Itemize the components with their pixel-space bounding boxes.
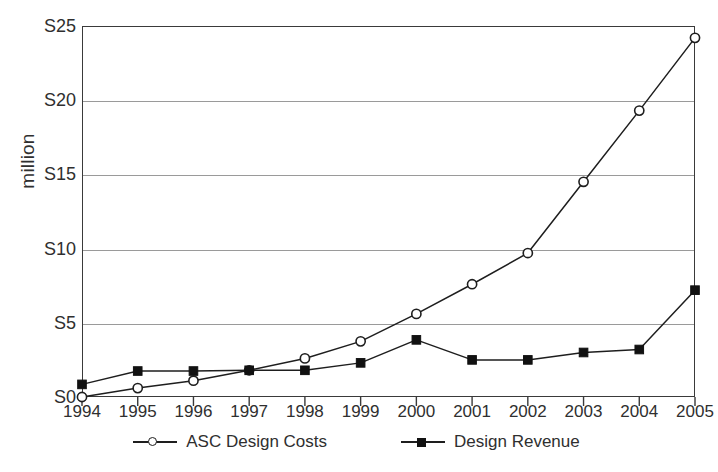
x-axis-tick-label: 1998: [277, 402, 333, 422]
x-axis-tick-label: 1997: [221, 402, 277, 422]
x-axis-tick-label: 1994: [54, 402, 110, 422]
legend-swatch-filled-square: [401, 435, 445, 449]
x-axis-tick-label: 1996: [165, 402, 221, 422]
x-axis-tick-label: 2000: [388, 402, 444, 422]
x-axis-tick-label: 2005: [667, 402, 718, 422]
chart-legend: ASC Design CostsDesign Revenue: [0, 432, 713, 452]
x-axis-tick-label: 2003: [556, 402, 612, 422]
legend-entry[interactable]: ASC Design Costs: [133, 432, 327, 452]
legend-label: ASC Design Costs: [186, 432, 327, 452]
x-axis-tick-label: 2002: [500, 402, 556, 422]
legend-entry[interactable]: Design Revenue: [401, 432, 580, 452]
legend-swatch-open-circle: [133, 435, 177, 449]
x-axis-tick-label: 2004: [611, 402, 667, 422]
x-axis-tick-label: 2001: [444, 402, 500, 422]
x-axis-tick-label: 1995: [110, 402, 166, 422]
open-circle-icon: [148, 437, 157, 446]
legend-label: Design Revenue: [454, 432, 580, 452]
x-axis-tick-label: 1999: [333, 402, 389, 422]
filled-square-icon: [417, 438, 426, 447]
